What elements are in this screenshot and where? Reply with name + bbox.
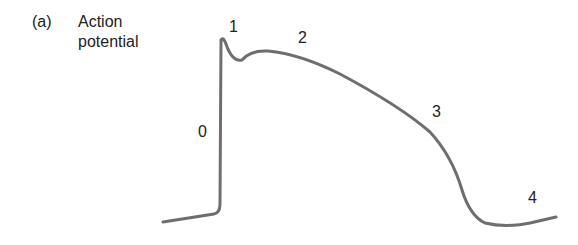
phase-label-3: 3 xyxy=(432,104,441,120)
phase-label-0: 0 xyxy=(198,124,207,140)
action-potential-curve xyxy=(0,0,578,245)
phase-label-2: 2 xyxy=(298,30,307,46)
phase-label-4: 4 xyxy=(528,190,537,206)
phase-label-1: 1 xyxy=(229,19,238,35)
